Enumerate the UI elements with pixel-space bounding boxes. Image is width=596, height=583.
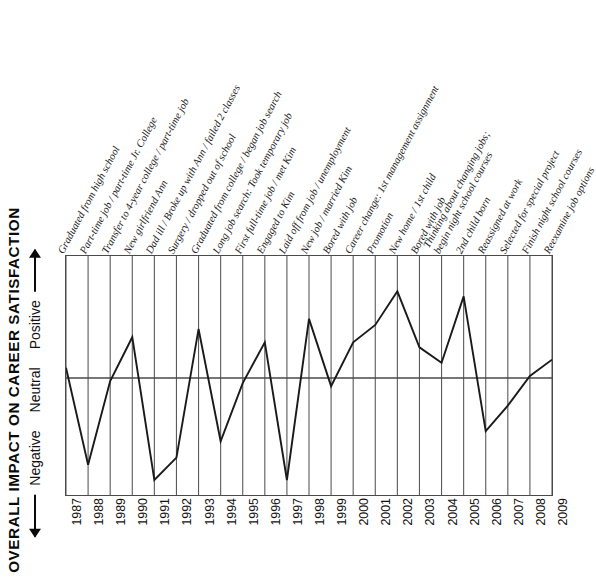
y-axis-scale: Negative Neutral Positive	[27, 249, 43, 536]
year-label-2009: 2009	[556, 498, 570, 526]
chart-svg	[66, 256, 552, 495]
y-axis-label-neutral: Neutral	[27, 358, 43, 421]
year-label-2003: 2003	[423, 498, 437, 526]
year-label-1991: 1991	[158, 498, 172, 526]
year-label-1996: 1996	[269, 498, 283, 526]
year-label-1990: 1990	[136, 498, 150, 526]
year-label-1989: 1989	[114, 498, 128, 526]
event-label-list: Graduated from high schoolPart-time job …	[0, 0, 596, 256]
year-label-2007: 2007	[512, 498, 526, 526]
year-label-2001: 2001	[379, 498, 393, 526]
year-label-1992: 1992	[180, 498, 194, 526]
plot-area	[65, 255, 553, 496]
year-label-1987: 1987	[70, 498, 84, 526]
y-axis-label-positive: Positive	[27, 291, 43, 358]
year-label-2008: 2008	[534, 498, 548, 526]
year-label-1993: 1993	[203, 498, 217, 526]
x-axis-year-labels: 1987198819891990199119921993199419951996…	[0, 498, 596, 578]
year-label-2006: 2006	[490, 498, 504, 526]
year-label-1988: 1988	[92, 498, 106, 526]
year-label-1999: 1999	[335, 498, 349, 526]
career-satisfaction-chart: OVERALL IMPACT ON CAREER SATISFACTION Ne…	[0, 0, 596, 583]
year-label-1998: 1998	[313, 498, 327, 526]
year-label-1995: 1995	[247, 498, 261, 526]
year-label-2004: 2004	[446, 498, 460, 526]
year-label-2000: 2000	[357, 498, 371, 526]
year-label-1997: 1997	[291, 498, 305, 526]
year-label-2005: 2005	[468, 498, 482, 526]
year-label-1994: 1994	[225, 498, 239, 526]
y-axis-label-negative: Negative	[27, 421, 43, 494]
year-label-2002: 2002	[401, 498, 415, 526]
